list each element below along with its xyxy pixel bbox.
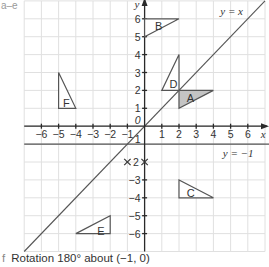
y-tick-label: −5: [129, 210, 141, 222]
caption-letter: f: [2, 252, 5, 264]
y-tick-label: −4: [129, 192, 141, 204]
mirror-line-label-y-equals-x: y = x: [219, 5, 243, 17]
coordinate-grid-diagram: y = xy = −1xy−6−5−4−3−2−1123456−6−5−4−31…: [0, 0, 269, 254]
triangle-label-a: A: [187, 92, 195, 104]
y-tick-label: 1: [135, 102, 141, 114]
x-axis-label: x: [260, 128, 266, 140]
caption: fRotation 180° about (−1, 0): [2, 252, 150, 264]
triangle-label-e: E: [97, 225, 104, 237]
triangle-label-f: F: [63, 97, 70, 109]
x-tick-label: 2: [176, 128, 182, 140]
x-tick-label: 6: [245, 128, 251, 140]
y-tick-label-minus-2: 2: [133, 156, 139, 168]
x-tick-label: −4: [70, 128, 82, 140]
mirror-line-label-y-equals-minus-1: y = −1: [222, 147, 254, 159]
x-tick-label: 5: [228, 128, 234, 140]
y-tick-label: 5: [135, 31, 141, 43]
x-tick-label: −1: [121, 128, 133, 140]
x-tick-label: 3: [193, 128, 199, 140]
y-tick-label: 6: [135, 13, 141, 25]
x-tick-label: −5: [53, 128, 65, 140]
x-tick-label: 4: [210, 128, 216, 140]
y-axis-label: y: [134, 0, 140, 10]
caption-text: Rotation 180° about (−1, 0): [11, 252, 150, 264]
x-tick-label: −6: [35, 128, 47, 140]
y-tick-label: 4: [135, 49, 141, 61]
triangle-label-b: B: [155, 20, 162, 32]
x-tick-label: −3: [87, 128, 99, 140]
origin-label: 0: [135, 114, 141, 126]
x-tick-label: −2: [104, 128, 116, 140]
x-tick-label: 1: [159, 128, 165, 140]
y-tick-label: 1: [135, 133, 141, 145]
y-tick-label: −6: [129, 228, 141, 240]
y-tick-label: 2: [135, 84, 141, 96]
y-tick-label: −3: [129, 174, 141, 186]
y-tick-label: 3: [135, 67, 141, 79]
triangle-label-d: D: [170, 78, 178, 90]
triangle-label-c: C: [187, 187, 195, 199]
